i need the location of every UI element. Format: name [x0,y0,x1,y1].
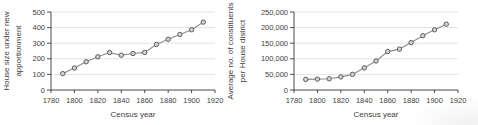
x-tick-label: 1880 [403,96,420,105]
data-point [421,34,425,38]
x-tick-label: 1820 [333,96,350,105]
y-tick-label: 400 [32,23,45,32]
data-point [339,75,343,79]
x-tick-label: 1920 [450,96,467,105]
data-line [306,24,447,79]
data-point [178,32,182,36]
data-point [304,77,308,81]
x-axis-label-house-size: Census year [111,110,156,119]
y-tick-label: 500 [32,8,45,17]
house-size-chart: 0100200300400500178018001820184018601880… [32,8,223,106]
data-point [327,77,331,81]
y-tick-label: 0 [41,86,45,95]
x-tick-label: 1780 [286,96,303,105]
data-point [201,20,205,24]
y-tick-label: 100,000 [261,54,288,63]
data-point [154,42,158,46]
data-point [397,47,401,51]
data-point [166,37,170,41]
x-tick-label: 1800 [66,96,83,105]
x-tick-label: 1860 [136,96,153,105]
x-tick-label: 1880 [160,96,177,105]
y-tick-label: 200,000 [261,23,288,32]
data-point [386,49,390,53]
dual-line-chart-figure: 0100200300400500178018001820184018601880… [0,0,478,125]
data-point [315,77,319,81]
census-charts-svg: 0100200300400500178018001820184018601880… [0,0,478,125]
data-point [84,60,88,64]
x-tick-label: 1860 [379,96,396,105]
y-tick-label: 150,000 [261,39,288,48]
y-tick-label: 200 [32,54,45,63]
x-tick-label: 1920 [207,96,224,105]
x-tick-label: 1820 [90,96,107,105]
x-tick-label: 1840 [356,96,373,105]
x-axis-label-constituents: Census year [354,110,399,119]
data-point [432,28,436,32]
data-point [119,53,123,57]
data-point [350,72,354,76]
y-axis-label-house-size-line1: House size under new [2,11,11,90]
y-tick-label: 250,000 [261,8,288,17]
y-axis-label-constituents-line1: Average no. of constituents [226,3,235,100]
data-point [107,50,111,54]
data-point [143,50,147,54]
y-axis-label-constituents-line2: per House district [238,19,247,82]
x-tick-label: 1800 [309,96,326,105]
x-tick-label: 1840 [113,96,130,105]
x-tick-label: 1900 [426,96,443,105]
data-line [63,22,204,73]
data-point [362,66,366,70]
data-point [374,59,378,63]
y-tick-label: 100 [32,70,45,79]
data-point [444,22,448,26]
x-tick-label: 1900 [183,96,200,105]
y-tick-label: 50,000 [265,70,288,79]
data-point [131,51,135,55]
y-tick-label: 300 [32,39,45,48]
y-axis-label-house-size-line2: apportionment [14,25,23,77]
constituents-chart: 050,000100,000150,000200,000250,00017801… [261,8,466,106]
data-point [72,66,76,70]
data-point [189,28,193,32]
data-point [96,55,100,59]
x-tick-label: 1780 [43,96,60,105]
data-point [61,71,65,75]
data-point [409,40,413,44]
y-tick-label: 0 [284,86,288,95]
